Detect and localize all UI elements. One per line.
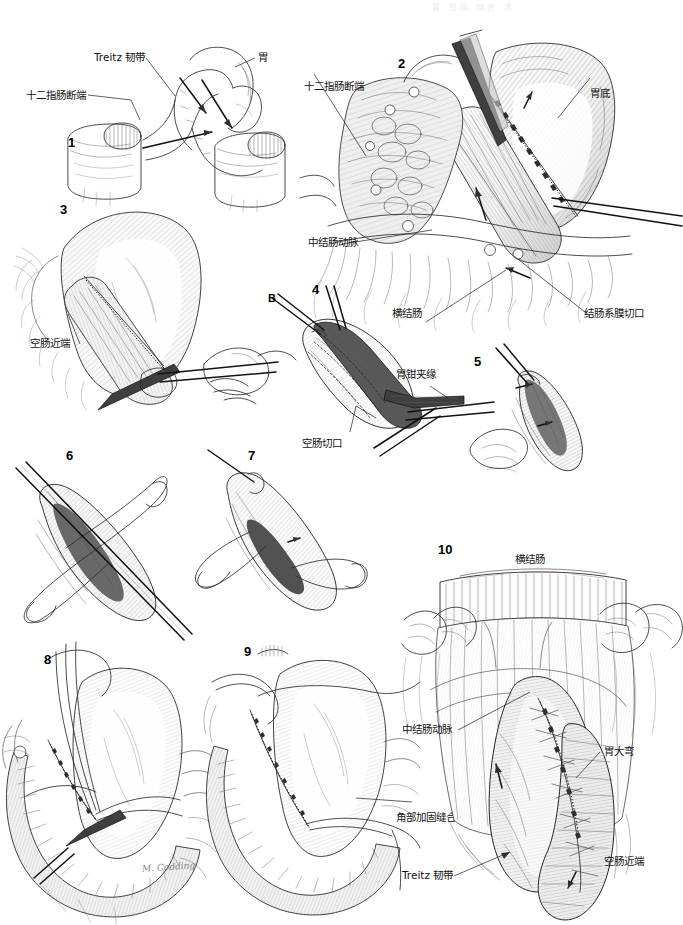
panel-8-artwork (4, 634, 224, 919)
jejunum-loop-drawing (143, 70, 262, 176)
leader-duodenal-stump (88, 95, 140, 120)
left-mesentery (204, 696, 216, 742)
leader-treitz (146, 58, 175, 96)
panel-6-artwork (4, 444, 214, 644)
panel-5-artwork (462, 342, 662, 472)
panel-8: 8 (4, 634, 224, 919)
label-mesocolon-incision: 结肠系膜切口 (584, 308, 644, 320)
leader-gastric-clamp-edge (430, 386, 448, 398)
panel-8-number: 8 (44, 652, 51, 667)
panel-7: 7 (196, 444, 386, 634)
panel-5: 5 (462, 342, 662, 472)
illustration-plate: 胃 空肠 吻合 术 (0, 0, 683, 925)
panel-6: 6 (4, 444, 214, 644)
label-stomach: 胃 (258, 52, 268, 64)
panel-2-number: 2 (398, 56, 405, 71)
panel-1-number: 1 (68, 135, 75, 150)
label-transverse-colon: 横结肠 (515, 554, 545, 566)
panel-9-artwork (206, 634, 421, 919)
label-proximal-jejunum: 空肠近端 (30, 338, 70, 350)
label-greater-curvature: 胃大弯 (604, 746, 634, 758)
panel-4-marker-b: B (268, 292, 276, 304)
panel-3: 3 空肠近端 (8, 196, 298, 436)
label-ligament-of-treitz: Treitz 韧带 (402, 870, 453, 882)
panel-1-artwork (0, 20, 320, 210)
label-middle-colic-artery: 中结肠动脉 (402, 724, 452, 736)
panel-3-number: 3 (60, 202, 67, 217)
label-duodenal-stump: 十二指肠断端 (0, 90, 86, 102)
leader-mesocolon-incision (514, 256, 590, 316)
panel-9-number: 9 (244, 644, 251, 659)
label-gastric-clamp-edge: 胃钳夹缘 (396, 369, 436, 381)
panel-4-number: 4 (312, 282, 319, 297)
panel-7-artwork (196, 444, 386, 634)
surgeon-hand (470, 429, 528, 472)
label-proximal-jejunum: 空肠近端 (604, 856, 644, 868)
label-duodenal-stump: 十二指肠断端 (304, 81, 364, 93)
direction-arrows (143, 78, 232, 148)
panel-3-artwork (8, 196, 298, 436)
page-header-faint: 胃 空肠 吻合 术 (432, 1, 515, 12)
duodenal-stump-drawing (68, 123, 141, 206)
closed-anastomosis (226, 473, 336, 610)
label-gastric-fundus: 胃底 (590, 88, 610, 100)
panel-6-number: 6 (66, 448, 73, 463)
panel-9: 9 (206, 634, 421, 919)
label-ligament-of-treitz: Treitz 韧带 (94, 52, 145, 64)
panel-10-number: 10 (438, 542, 452, 557)
panel-7-number: 7 (248, 448, 255, 463)
panel-10: 10 横结肠 中结肠动脉 胃大弯 Treitz 韧带 空肠近端 (400, 534, 683, 925)
panel-5-number: 5 (474, 354, 481, 369)
panel-1: 十二指肠断端 Treitz 韧带 胃 1 (0, 20, 320, 210)
label-middle-colic-artery: 中结肠动脉 (308, 237, 358, 249)
everted-anastomosis (36, 484, 156, 620)
